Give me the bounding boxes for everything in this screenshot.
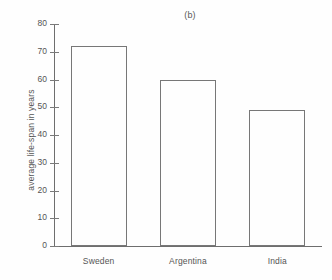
plot-area: 01020304050607080 SwedenArgentinaIndia: [54, 24, 322, 246]
y-tick-mark: [50, 246, 59, 247]
y-tick-mark: [50, 135, 59, 136]
y-tick-label: 60: [38, 74, 47, 84]
y-tick-label: 10: [38, 212, 47, 222]
y-tick-mark: [50, 52, 59, 53]
y-tick-mark: [50, 163, 59, 164]
x-axis-line: [54, 246, 322, 247]
bar-sweden: [71, 46, 127, 246]
y-tick-mark: [50, 24, 59, 25]
y-tick-mark: [50, 218, 59, 219]
bar-chart-figure: (b) average life-span in years 010203040…: [0, 0, 332, 280]
chart-title: (b): [0, 10, 332, 20]
bar-argentina: [160, 80, 216, 247]
y-tick-label: 50: [38, 101, 47, 111]
x-tick-label-argentina: Argentina: [143, 256, 232, 266]
y-tick-label: 40: [38, 129, 47, 139]
y-tick-label: 20: [38, 185, 47, 195]
y-axis-title: average life-span in years: [26, 45, 36, 235]
y-tick-mark: [50, 80, 59, 81]
bar-india: [249, 110, 305, 246]
y-tick-mark: [50, 191, 59, 192]
x-tick-label-india: India: [233, 256, 322, 266]
x-tick-label-sweden: Sweden: [54, 256, 143, 266]
y-tick-label: 30: [38, 157, 47, 167]
y-tick-mark: [50, 107, 59, 108]
y-tick-label: 80: [38, 18, 47, 28]
y-tick-label: 70: [38, 46, 47, 56]
y-tick-label: 0: [42, 240, 47, 250]
